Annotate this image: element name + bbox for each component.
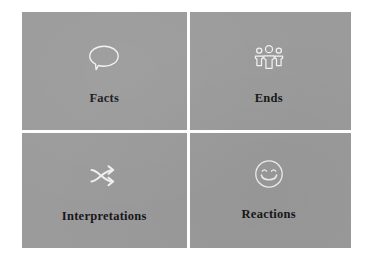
quadrant-panel: Facts Ends: [22, 12, 351, 248]
quadrant-label-ends: Ends: [255, 92, 283, 105]
quadrant-label-interpretations: Interpretations: [62, 210, 147, 223]
divider-horizontal: [22, 130, 351, 133]
slide-canvas: Facts Ends: [0, 0, 372, 260]
quadrant-interpretations[interactable]: Interpretations: [22, 130, 187, 248]
quadrant-label-facts: Facts: [89, 92, 119, 105]
quadrant-ends[interactable]: Ends: [187, 12, 352, 130]
shuffle-arrows-icon: [80, 156, 128, 196]
quadrant-facts[interactable]: Facts: [22, 12, 187, 130]
smiley-face-icon: [245, 154, 293, 194]
group-of-people-icon: [245, 38, 293, 78]
speech-bubble-icon: [80, 38, 128, 78]
quadrant-reactions[interactable]: Reactions: [187, 130, 352, 248]
quadrant-label-reactions: Reactions: [242, 208, 296, 221]
